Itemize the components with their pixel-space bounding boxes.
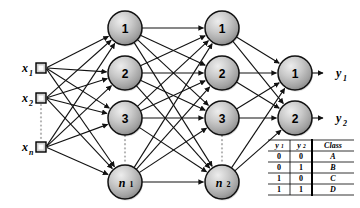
table-cell: 0 [277, 152, 281, 161]
input-node-x2[interactable] [36, 93, 46, 103]
table-cell: 1 [277, 185, 281, 194]
node-label-subscript: 1 [130, 180, 134, 189]
hidden2-node-h2-2[interactable]: 2 [205, 56, 240, 92]
table-cell: 0 [277, 163, 281, 172]
io-label-base: y [334, 111, 342, 125]
edge-x2-h1-2 [47, 79, 107, 98]
io-label-base: x [21, 140, 28, 154]
node-label-subscript: 2 [227, 180, 231, 189]
node-label: 3 [122, 112, 129, 126]
node-label: 3 [219, 112, 226, 126]
edge-h1-n-h2-3 [139, 128, 206, 172]
edge-h1-1-h2-2 [140, 35, 205, 65]
table-cell: D [329, 185, 336, 194]
node-label: 2 [292, 112, 299, 126]
node-label: 2 [219, 67, 226, 81]
edge-h1-3-h2-n [139, 127, 206, 171]
table-header-subscript: 2 [302, 143, 306, 149]
edges-output-to-labels [312, 73, 323, 118]
table-cell: A [329, 152, 336, 161]
edge-h1-2-h2-n [136, 86, 209, 168]
node-label: 1 [292, 67, 299, 81]
input-square-inner [39, 66, 44, 71]
output-node-o1[interactable]: 1 [278, 56, 313, 92]
truth-table-group: y1y2Class00A01B10C11D [268, 139, 354, 196]
hidden2-node-h2-n[interactable]: n2 [205, 165, 240, 201]
io-label-subscript: 1 [343, 74, 347, 83]
table-header-cell: Class [324, 141, 342, 150]
io-label-base: x [21, 91, 28, 105]
input-square-inner [39, 96, 44, 101]
table-header-subscript: 1 [281, 143, 284, 149]
hidden1-node-h1-2[interactable]: 2 [108, 56, 143, 92]
edge-h2-n-o2 [235, 130, 281, 171]
edge-h2-1-o1 [236, 37, 279, 63]
io-label-subscript: 1 [29, 69, 33, 78]
output-node-group: 12 [278, 56, 313, 137]
edge-xn-h1-n [47, 147, 108, 174]
node-label: 1 [219, 22, 226, 36]
input-label-xn: xn [21, 140, 34, 157]
input-node-xn[interactable] [36, 142, 46, 152]
hidden2-node-h2-3[interactable]: 3 [205, 101, 240, 137]
hidden2-node-group: 123n2 [205, 11, 240, 201]
io-label-subscript: 2 [28, 99, 33, 108]
table-cell: C [330, 174, 336, 183]
output-node-o2[interactable]: 2 [278, 101, 313, 137]
io-label-subscript: 2 [342, 119, 347, 128]
input-square-inner [39, 145, 44, 150]
table-header-cell: y [296, 141, 301, 150]
edge-h2-2-o2 [236, 82, 279, 108]
input-label-x2: x2 [21, 91, 33, 108]
hidden1-node-h1-1[interactable]: 1 [108, 11, 143, 47]
node-label: n [216, 176, 223, 190]
table-cell: 1 [299, 185, 303, 194]
input-node-x1[interactable] [36, 63, 46, 73]
node-label: n [119, 176, 126, 190]
table-cell: 1 [299, 163, 303, 172]
edge-h1-n-h2-1 [134, 44, 212, 168]
table-cell: 0 [299, 152, 303, 161]
node-label: 2 [122, 67, 129, 81]
edge-x2-h1-n [47, 99, 113, 169]
hidden1-node-group: 123n1 [108, 11, 143, 201]
hidden2-node-h2-1[interactable]: 1 [205, 11, 240, 47]
edge-x1-h1-1 [47, 36, 109, 67]
node-label: 1 [122, 22, 129, 36]
hidden1-node-h1-n[interactable]: n1 [108, 165, 143, 201]
edge-h1-n-h2-2 [136, 87, 209, 169]
io-label-base: x [21, 61, 28, 75]
edges-hidden1-to-hidden2 [134, 28, 212, 182]
output-label-y1: y1 [334, 66, 347, 83]
io-label-subscript: n [29, 148, 34, 157]
neural-network-diagram: 123n1 123n2 12 x1x2xny1y2 y1y2Class00A01… [0, 0, 360, 208]
table-cell: 1 [277, 174, 281, 183]
io-label-base: y [334, 66, 342, 80]
hidden1-node-h1-3[interactable]: 3 [108, 101, 143, 137]
edge-h1-1-h2-n [134, 42, 212, 166]
table-cell: 0 [299, 174, 303, 183]
output-label-y2: y2 [334, 111, 347, 128]
edges-input-to-hidden1 [47, 36, 115, 174]
table-cell: B [329, 163, 336, 172]
table-header-cell: y [274, 141, 279, 150]
input-label-x1: x1 [21, 61, 33, 78]
